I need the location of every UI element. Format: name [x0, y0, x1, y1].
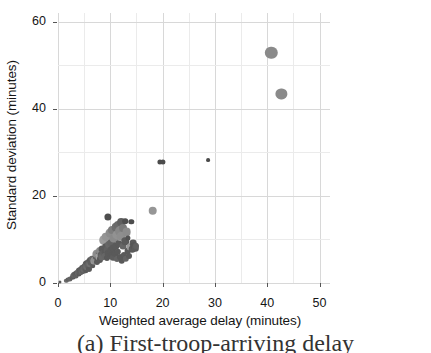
- gridline-vertical: [215, 13, 216, 283]
- scatter-point: [126, 253, 132, 259]
- plot-area: [58, 13, 330, 283]
- x-tick-label: 10: [90, 296, 130, 310]
- x-tick-mark: [58, 283, 59, 287]
- y-tick-label: 0: [0, 275, 46, 289]
- scatter-point: [129, 219, 134, 224]
- gridline-vertical: [189, 13, 190, 283]
- figure-caption: (a) First-troop-arriving delay: [0, 330, 431, 353]
- scatter-plot-figure: Standard deviation (minutes) Weighted av…: [0, 0, 431, 353]
- gridline-vertical: [163, 13, 164, 283]
- gridline-vertical: [58, 13, 59, 283]
- scatter-point: [122, 218, 128, 224]
- y-tick-label: 60: [0, 14, 46, 28]
- y-tick-mark: [53, 109, 57, 110]
- scatter-point: [206, 158, 210, 162]
- gridline-vertical: [320, 13, 321, 283]
- scatter-point: [265, 47, 277, 59]
- scatter-point: [276, 88, 287, 99]
- x-tick-mark: [320, 283, 321, 287]
- x-tick-label: 50: [300, 296, 340, 310]
- x-tick-label: 0: [38, 296, 78, 310]
- x-tick-mark: [163, 283, 164, 287]
- y-tick-mark: [53, 196, 57, 197]
- y-axis-title: Standard deviation (minutes): [0, 0, 22, 290]
- x-tick-label: 40: [247, 296, 287, 310]
- x-tick-mark: [110, 283, 111, 287]
- gridline-horizontal: [58, 196, 330, 197]
- gridline-vertical: [293, 13, 294, 283]
- x-tick-label: 20: [143, 296, 183, 310]
- gridline-vertical: [241, 13, 242, 283]
- gridline-horizontal: [58, 109, 330, 110]
- gridline-horizontal: [58, 152, 330, 153]
- y-tick-mark: [53, 283, 57, 284]
- scatter-point: [133, 243, 139, 249]
- gridline-horizontal: [58, 283, 330, 284]
- gridline-horizontal: [58, 65, 330, 66]
- y-tick-mark: [53, 22, 57, 23]
- y-tick-label: 20: [0, 188, 46, 202]
- x-tick-label: 30: [195, 296, 235, 310]
- gridline-vertical: [84, 13, 85, 283]
- x-tick-mark: [267, 283, 268, 287]
- y-tick-label: 40: [0, 101, 46, 115]
- gridline-horizontal: [58, 22, 330, 23]
- scatter-point: [148, 206, 157, 215]
- scatter-point: [161, 159, 166, 164]
- x-axis-title: Weighted average delay (minutes): [40, 313, 360, 328]
- x-tick-mark: [215, 283, 216, 287]
